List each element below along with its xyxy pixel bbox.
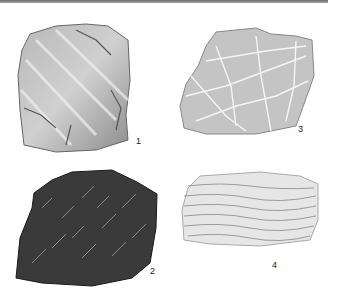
specimen-1-number: 1 — [136, 136, 141, 146]
specimen-2-illustration — [12, 168, 158, 290]
specimen-1-illustration — [16, 20, 134, 155]
specimen-2-number: 2 — [150, 266, 155, 276]
specimen-3-illustration — [176, 26, 316, 138]
top-rule — [0, 0, 328, 3]
specimen-4-number: 4 — [272, 260, 277, 270]
specimen-3-number: 3 — [298, 124, 303, 134]
specimen-4-illustration — [180, 170, 320, 250]
